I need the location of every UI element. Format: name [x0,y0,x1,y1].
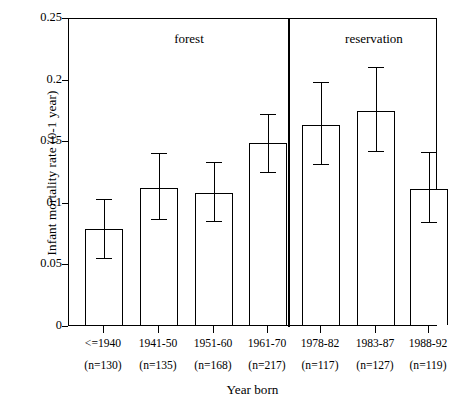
error-bar-cap-upper [260,114,276,115]
y-tick-mark [62,264,68,265]
error-bar-cap-lower [206,221,222,222]
plot-area: forest reservation [68,18,437,326]
error-bar [104,199,105,258]
chart-figure: Infant mortality rate (0-1 year) 00.050.… [0,0,454,406]
y-tick-mark [62,18,68,19]
error-bar-cap-upper [421,152,437,153]
error-bar-cap-upper [313,82,329,83]
y-tick-label: 0.15 [20,134,62,146]
x-axis-title: Year born [68,382,437,398]
group-label-forest: forest [129,31,249,47]
error-bar-cap-lower [421,222,437,223]
y-axis-tick-labels: 00.050.10.150.20.25 [18,0,62,406]
y-tick-label: 0 [20,319,62,331]
y-tick-mark [62,203,68,204]
error-bar-cap-upper [151,153,167,154]
error-bar-cap-lower [96,258,112,259]
error-bar [376,67,377,151]
y-tick-label: 0.1 [20,196,62,208]
y-tick-mark [62,326,68,327]
error-bar-cap-lower [151,219,167,220]
error-bar [159,153,160,218]
x-tick-mark [103,326,104,333]
y-tick-label: 0.2 [20,73,62,85]
x-tick-mark [267,326,268,333]
x-tick-mark [375,326,376,333]
x-tick-label-name: 1988-92 [393,337,454,350]
error-bar-cap-upper [206,162,222,163]
y-tick-label: 0.25 [20,11,62,23]
error-bar [268,114,269,172]
y-tick-mark [62,141,68,142]
error-bar [429,152,430,222]
error-bar-cap-upper [96,199,112,200]
x-tick-label: 1988-92(n=119) [393,337,454,373]
error-bar [214,162,215,221]
group-label-reservation: reservation [309,31,439,47]
y-tick-mark [62,80,68,81]
error-bar-cap-upper [368,67,384,68]
group-divider-line [288,18,290,327]
x-tick-mark [158,326,159,333]
y-tick-label: 0.05 [20,257,62,269]
error-bar [321,82,322,165]
error-bar-cap-lower [313,164,329,165]
error-bar-cap-lower [260,172,276,173]
x-tick-mark [428,326,429,333]
error-bar-cap-lower [368,151,384,152]
x-tick-mark [213,326,214,333]
x-tick-mark [320,326,321,333]
x-tick-label-sample-size: (n=119) [393,359,454,372]
